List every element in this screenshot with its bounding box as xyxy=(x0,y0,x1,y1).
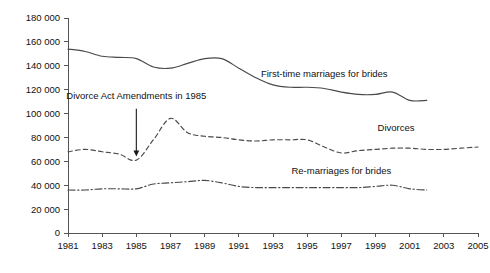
divorce-act-annotation-arrow-head xyxy=(133,151,139,157)
chart-container: 020 00040 00060 00080 000100 000120 0001… xyxy=(0,0,490,273)
y-tick-label: 120 000 xyxy=(26,84,60,95)
series-label-0: First-time marriages for brides xyxy=(261,68,388,79)
x-tick-label: 2001 xyxy=(399,240,420,251)
x-tick-label: 1993 xyxy=(262,240,283,251)
line-chart: 020 00040 00060 00080 000100 000120 0001… xyxy=(0,0,490,273)
divorce-act-annotation-text: Divorce Act Amendments in 1985 xyxy=(66,90,206,101)
x-tick-label: 1999 xyxy=(365,240,386,251)
x-tick-label: 1985 xyxy=(126,240,147,251)
x-tick-label: 1987 xyxy=(160,240,181,251)
series-label-2: Re-marriages for brides xyxy=(291,165,391,176)
chart-annotations: Divorce Act Amendments in 1985 xyxy=(66,90,206,156)
x-tick-label: 1995 xyxy=(297,240,318,251)
y-axis-group: 020 00040 00060 00080 000100 000120 0001… xyxy=(26,12,68,238)
y-tick-label: 0 xyxy=(55,227,60,238)
y-tick-label: 100 000 xyxy=(26,108,60,119)
y-tick-label: 80 000 xyxy=(31,132,60,143)
y-tick-label: 20 000 xyxy=(31,204,60,215)
series-inline-labels: First-time marriages for bridesDivorcesR… xyxy=(261,68,415,177)
x-tick-label: 2005 xyxy=(467,240,488,251)
x-tick-label: 1991 xyxy=(228,240,249,251)
y-tick-label: 140 000 xyxy=(26,60,60,71)
y-tick-label: 160 000 xyxy=(26,36,60,47)
y-tick-label: 40 000 xyxy=(31,180,60,191)
x-tick-label: 1981 xyxy=(57,240,78,251)
series-label-1: Divorces xyxy=(378,122,415,133)
x-tick-label: 2003 xyxy=(433,240,454,251)
x-tick-label: 1983 xyxy=(92,240,113,251)
x-tick-label: 1989 xyxy=(194,240,215,251)
x-axis-group: 1981198319851987198919911993199519971999… xyxy=(57,233,488,251)
x-axis-ticks: 1981198319851987198919911993199519971999… xyxy=(57,233,488,251)
series-line-2 xyxy=(68,180,427,190)
x-tick-label: 1997 xyxy=(331,240,352,251)
y-tick-label: 180 000 xyxy=(26,12,60,23)
y-axis-ticks: 020 00040 00060 00080 000100 000120 0001… xyxy=(26,12,68,238)
y-tick-label: 60 000 xyxy=(31,156,60,167)
series-line-1 xyxy=(68,118,478,160)
